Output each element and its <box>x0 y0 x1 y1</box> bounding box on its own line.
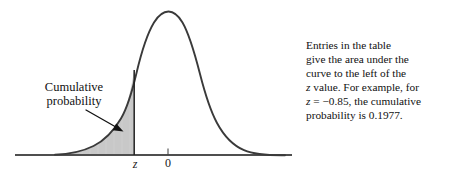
description-line-5-rest: = −0.85, the cumulative <box>310 95 421 107</box>
figure-canvas: Cumulative probability z 0 Entries in th… <box>0 0 454 176</box>
axis-label-zero: 0 <box>160 157 176 169</box>
description-line-6: probability is 0.1977. <box>306 108 450 122</box>
annotation-line-1: Cumulative <box>18 80 130 94</box>
description-line-1: Entries in the table <box>306 38 450 52</box>
axis-label-z: z <box>127 158 143 170</box>
description-line-4-rest: value. For example, for <box>310 81 419 93</box>
description-line-2: give the area under the <box>306 52 450 66</box>
description-line-3: curve to the left of the <box>306 66 450 80</box>
cumulative-probability-arrow <box>86 110 124 132</box>
description-line-4: z value. For example, for <box>306 80 450 94</box>
table-description-text: Entries in the table give the area under… <box>306 38 450 123</box>
cumulative-probability-label: Cumulative probability <box>18 80 130 108</box>
annotation-line-2: probability <box>18 94 130 108</box>
description-line-5: z = −0.85, the cumulative <box>306 94 450 108</box>
